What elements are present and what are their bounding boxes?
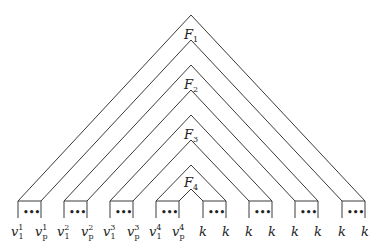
svg-text:v21: v21 [57,223,70,241]
label-f4: F4 [183,175,198,192]
leaf-labels-k: k k k k k k k k [199,224,369,239]
svg-text:•••: ••• [161,207,178,217]
svg-text:•••: ••• [254,207,271,217]
svg-text:k: k [199,224,207,239]
svg-text:v2p: v2p [81,223,94,241]
f4-inner-edge [179,189,203,218]
svg-text:k: k [361,224,369,239]
svg-text:v11: v11 [11,223,24,241]
svg-text:•••: ••• [23,207,40,217]
svg-text:v41: v41 [149,223,162,241]
svg-text:v3p: v3p [127,223,140,241]
svg-text:v4p: v4p [172,223,185,241]
svg-text:•••: ••• [347,207,364,217]
svg-text:k: k [245,224,253,239]
label-f2: F2 [183,77,198,94]
svg-text:k: k [268,224,276,239]
f2-inner-edge [87,90,295,218]
svg-text:•••: ••• [300,207,317,217]
ellipsis-dots: ••• ••• ••• ••• ••• ••• ••• ••• [23,207,364,217]
svg-text:•••: ••• [69,207,86,217]
svg-text:k: k [338,224,346,239]
label-f1: F1 [183,27,198,44]
svg-text:•••: ••• [115,207,132,217]
svg-text:v31: v31 [103,223,116,241]
svg-text:v1p: v1p [35,223,48,241]
leaf-labels-v: v11 v1p v21 v2p v31 v3p v41 v4p [11,223,185,241]
diagram-canvas: ••• ••• ••• ••• ••• ••• ••• ••• F1 F2 F3… [0,0,383,249]
svg-text:•••: ••• [208,207,225,217]
svg-text:k: k [291,224,299,239]
svg-text:k: k [314,224,322,239]
label-f3: F3 [183,127,198,144]
svg-text:k: k [222,224,230,239]
